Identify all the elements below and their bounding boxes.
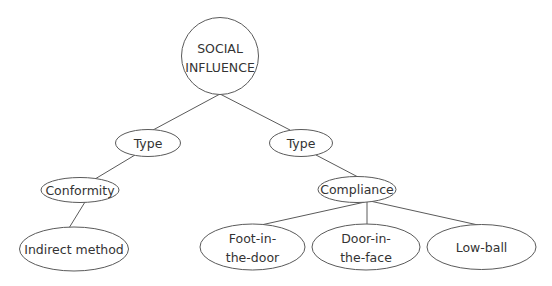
node-door-in-the-face: Door-in- the-face — [312, 224, 420, 270]
edge-type-left-to-conformity — [95, 155, 135, 179]
node-type-right-label: Type — [286, 136, 316, 151]
node-conformity-label: Conformity — [45, 183, 115, 198]
edge-root-to-type-right — [220, 94, 290, 130]
edge-compliance-to-foot-in-the-door — [261, 202, 365, 225]
social-influence-diagram: SOCIAL INFLUENCE Type Type Conformity In… — [0, 0, 552, 286]
node-compliance-label: Compliance — [320, 182, 394, 197]
node-type-left-label: Type — [133, 136, 163, 151]
node-type-right: Type — [270, 130, 333, 157]
node-indirect-method: Indirect method — [20, 227, 129, 271]
node-compliance: Compliance — [318, 177, 396, 203]
node-conformity: Conformity — [41, 178, 119, 203]
node-low-ball-label: Low-ball — [456, 240, 508, 255]
node-root-label-line2: INFLUENCE — [185, 60, 255, 75]
node-indirect-method-label: Indirect method — [24, 242, 124, 257]
edges — [69, 94, 478, 228]
node-foot-in-the-door: Foot-in- the-door — [200, 224, 305, 270]
node-root: SOCIAL INFLUENCE — [182, 18, 259, 95]
node-foot-in-the-door-label-line1: Foot-in- — [229, 231, 276, 246]
node-root-circle — [182, 18, 259, 95]
node-root-label-line1: SOCIAL — [197, 41, 243, 56]
node-type-left: Type — [116, 130, 181, 157]
edge-root-to-type-left — [153, 94, 220, 130]
edge-conformity-to-indirect-method — [69, 202, 85, 228]
node-foot-in-the-door-label-line2: the-door — [226, 250, 280, 265]
node-door-in-the-face-label-line2: the-face — [340, 250, 392, 265]
edge-compliance-to-low-ball — [370, 201, 478, 225]
node-low-ball: Low-ball — [427, 225, 536, 270]
node-door-in-the-face-label-line1: Door-in- — [341, 231, 391, 246]
edge-type-right-to-compliance — [316, 155, 358, 177]
nodes: SOCIAL INFLUENCE Type Type Conformity In… — [20, 18, 537, 272]
